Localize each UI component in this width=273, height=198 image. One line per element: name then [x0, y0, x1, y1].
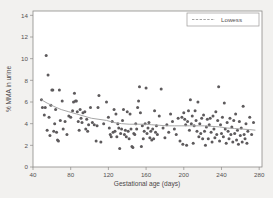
data-point — [55, 131, 58, 134]
data-point — [196, 101, 199, 104]
y-axis-title: % MMA in urine — [5, 66, 12, 113]
data-point — [47, 73, 50, 76]
plot-area-background — [33, 11, 262, 167]
data-point — [102, 122, 105, 125]
data-point — [147, 121, 150, 124]
data-point — [228, 137, 231, 140]
data-point — [160, 88, 163, 91]
data-point — [127, 130, 130, 133]
data-point — [77, 120, 80, 123]
data-point — [113, 108, 116, 111]
data-point — [76, 110, 79, 113]
data-point — [241, 141, 244, 144]
data-point — [237, 143, 240, 146]
data-point — [231, 141, 234, 144]
data-point — [71, 109, 74, 112]
data-point — [229, 133, 232, 136]
data-point — [52, 130, 55, 133]
data-point — [234, 112, 237, 115]
data-point — [44, 106, 47, 109]
data-point — [128, 137, 131, 140]
data-point — [186, 120, 189, 123]
data-point — [217, 85, 220, 88]
data-point — [233, 132, 236, 135]
data-point — [110, 135, 113, 138]
data-point — [54, 108, 57, 111]
y-tick-label: 8 — [25, 77, 29, 84]
x-axis-title: Gestational age (days) — [114, 180, 180, 188]
data-point — [235, 138, 238, 141]
x-tick-label: 120 — [103, 171, 114, 178]
data-point — [238, 120, 241, 123]
data-point — [173, 128, 176, 131]
data-point — [126, 110, 129, 113]
data-point — [187, 109, 190, 112]
data-point — [43, 114, 46, 117]
data-point — [190, 122, 193, 125]
data-point — [57, 140, 60, 143]
data-point — [192, 142, 195, 145]
data-point — [125, 135, 128, 138]
data-point — [145, 86, 148, 89]
data-point — [118, 147, 121, 150]
data-point — [248, 116, 251, 119]
data-point — [41, 106, 44, 109]
data-point — [108, 127, 111, 130]
data-point — [220, 132, 223, 135]
data-point — [250, 133, 253, 136]
data-point — [121, 119, 124, 122]
data-point — [69, 116, 72, 119]
x-tick-label: 160 — [141, 171, 152, 178]
data-point — [75, 99, 78, 102]
data-point — [135, 128, 138, 131]
data-point — [225, 142, 228, 145]
data-point — [175, 133, 178, 136]
data-point — [194, 109, 197, 112]
scatter-plot: 4080120160200240280 02468101214 Gestatio… — [0, 0, 273, 198]
data-point — [210, 131, 213, 134]
data-point — [65, 133, 68, 136]
data-point — [59, 119, 62, 122]
y-tick-label: 0 — [25, 163, 29, 170]
data-point — [142, 137, 145, 140]
data-point — [95, 140, 98, 143]
y-tick-label: 4 — [25, 120, 29, 127]
x-tick-label: 200 — [179, 171, 190, 178]
data-point — [245, 142, 248, 145]
data-point — [207, 137, 210, 140]
data-point — [79, 108, 82, 111]
y-tick-label: 6 — [25, 98, 29, 105]
data-point — [119, 132, 122, 135]
data-point — [216, 119, 219, 122]
data-point — [227, 130, 230, 133]
data-point — [167, 131, 170, 134]
data-point — [87, 123, 90, 126]
data-point — [199, 132, 202, 135]
data-point — [153, 109, 156, 112]
data-point — [89, 106, 92, 109]
data-point — [58, 89, 61, 92]
data-point — [86, 130, 89, 133]
data-point — [152, 137, 155, 140]
data-point — [171, 120, 174, 123]
x-tick-label: 40 — [30, 171, 37, 178]
data-point — [180, 116, 183, 119]
data-point — [181, 143, 184, 146]
data-point — [177, 117, 180, 120]
data-point — [211, 115, 214, 118]
data-point — [203, 130, 206, 133]
data-point — [221, 116, 224, 119]
data-point — [140, 145, 143, 148]
data-point — [223, 102, 226, 105]
data-point — [197, 135, 200, 138]
data-point — [183, 118, 186, 121]
data-point — [64, 120, 67, 123]
data-point — [99, 141, 102, 144]
data-point — [81, 121, 84, 124]
data-point — [218, 140, 221, 143]
data-point — [124, 129, 127, 132]
data-point — [115, 135, 118, 138]
y-tick-label: 10 — [21, 55, 28, 62]
data-point — [204, 144, 207, 147]
data-point — [191, 115, 194, 118]
